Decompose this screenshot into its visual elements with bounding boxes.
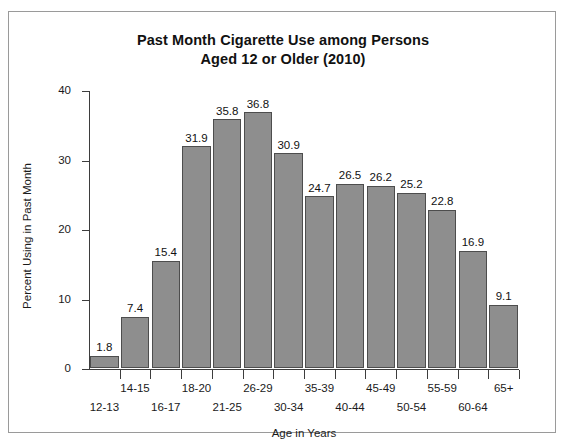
bar-value-label-26-29: 36.8 <box>247 99 269 111</box>
x-label-21-25: 21-25 <box>212 402 241 414</box>
y-tick-label-40: 40 <box>58 85 71 97</box>
bar-value-label-18-20: 31.9 <box>185 133 207 145</box>
y-tick-label-10: 10 <box>58 294 71 306</box>
x-tick-11 <box>427 370 428 379</box>
x-label-16-17: 16-17 <box>151 402 180 414</box>
x-tick-7 <box>304 370 305 379</box>
bar-18-20: 31.9 <box>182 146 210 368</box>
x-tick-1 <box>120 370 121 379</box>
bar-14-15: 7.4 <box>121 317 149 368</box>
x-tick-12 <box>458 370 459 379</box>
x-label-26-29: 26-29 <box>243 383 272 395</box>
bar-value-label-35-39: 24.7 <box>308 183 330 195</box>
x-tick-2 <box>150 370 151 379</box>
bar-35-39: 24.7 <box>305 196 333 368</box>
x-label-14-15: 14-15 <box>120 383 149 395</box>
footnote-text <box>27 423 567 432</box>
x-tick-13 <box>488 370 489 379</box>
x-label-18-20: 18-20 <box>182 383 211 395</box>
y-tick-30: 30 <box>82 161 89 162</box>
chart-title-line-1: Past Month Cigarette Use among Persons <box>9 31 557 50</box>
x-label-35-39: 35-39 <box>305 383 334 395</box>
bar-value-label-14-15: 7.4 <box>127 303 143 315</box>
y-tick-20: 20 <box>82 230 89 231</box>
x-tick-3 <box>181 370 182 379</box>
bar-value-label-21-25: 35.8 <box>216 106 238 118</box>
bar-16-17: 15.4 <box>152 261 180 368</box>
y-axis-line <box>89 91 90 370</box>
bar-21-25: 35.8 <box>213 119 241 368</box>
bar-40-44: 26.5 <box>336 184 364 368</box>
x-label-55-59: 55-59 <box>427 383 456 395</box>
x-label-50-54: 50-54 <box>397 402 426 414</box>
y-axis-title: Percent Using in Past Month <box>21 126 33 346</box>
x-label-45-49: 45-49 <box>366 383 395 395</box>
x-label-30-34: 30-34 <box>274 402 303 414</box>
bar-55-59: 22.8 <box>428 210 456 368</box>
bar-45-49: 26.2 <box>367 186 395 368</box>
x-tick-6 <box>273 370 274 379</box>
plot-area: 010203040 1.87.415.431.935.836.830.924.7… <box>89 91 519 369</box>
y-tick-40: 40 <box>82 91 89 92</box>
chart-title: Past Month Cigarette Use among Persons A… <box>9 31 557 69</box>
x-tick-5 <box>243 370 244 379</box>
bar-value-label-45-49: 26.2 <box>370 172 392 184</box>
bar-value-label-60-64: 16.9 <box>462 237 484 249</box>
x-label-65+: 65+ <box>494 383 514 395</box>
x-tick-10 <box>396 370 397 379</box>
bar-65+: 9.1 <box>489 305 517 368</box>
chart-title-line-2: Aged 12 or Older (2010) <box>9 50 557 69</box>
x-label-60-64: 60-64 <box>458 402 487 414</box>
bar-value-label-16-17: 15.4 <box>155 247 177 259</box>
bar-value-label-40-44: 26.5 <box>339 170 361 182</box>
bar-50-54: 25.2 <box>397 193 425 368</box>
y-tick-label-30: 30 <box>58 155 71 167</box>
bar-value-label-65+: 9.1 <box>496 291 512 303</box>
bar-30-34: 30.9 <box>274 153 302 368</box>
bar-value-label-12-13: 1.8 <box>96 342 112 354</box>
bar-value-label-30-34: 30.9 <box>277 140 299 152</box>
bar-12-13: 1.8 <box>90 356 118 369</box>
x-tick-14 <box>519 370 520 379</box>
y-tick-label-0: 0 <box>65 363 71 375</box>
x-label-12-13: 12-13 <box>90 402 119 414</box>
bar-value-label-55-59: 22.8 <box>431 196 453 208</box>
figure-frame: Past Month Cigarette Use among Persons A… <box>8 11 556 433</box>
y-tick-0: 0 <box>82 369 89 370</box>
bar-value-label-50-54: 25.2 <box>400 179 422 191</box>
bar-60-64: 16.9 <box>459 251 487 368</box>
x-tick-9 <box>365 370 366 379</box>
x-tick-8 <box>335 370 336 379</box>
y-tick-label-20: 20 <box>58 224 71 236</box>
bar-26-29: 36.8 <box>244 112 272 368</box>
y-tick-10: 10 <box>82 300 89 301</box>
x-tick-4 <box>212 370 213 379</box>
x-label-40-44: 40-44 <box>335 402 364 414</box>
